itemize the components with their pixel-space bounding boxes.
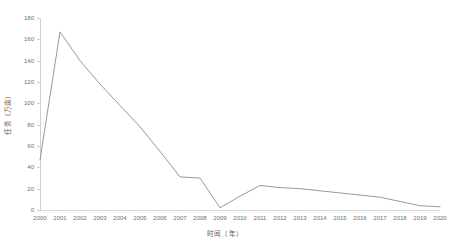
y-tick-mark	[37, 167, 40, 168]
y-tick-mark	[37, 146, 40, 147]
y-tick-mark	[37, 103, 40, 104]
x-axis-tick-labels: 2000200120022003200420052006200720082009…	[0, 214, 450, 228]
y-tick-mark	[37, 61, 40, 62]
data-series-line	[40, 32, 440, 208]
y-tick-mark	[37, 39, 40, 40]
x-tick-label: 2020	[428, 214, 450, 222]
y-tick-mark	[37, 82, 40, 83]
x-axis-title: 时间（年）	[0, 228, 450, 238]
y-tick-mark	[37, 125, 40, 126]
y-tick-mark	[37, 18, 40, 19]
line-chart: 任务（万亩） 020406080100120140160180 20002001…	[0, 0, 450, 246]
y-tick-mark	[37, 189, 40, 190]
series-layer	[0, 0, 450, 246]
y-tick-mark	[37, 210, 40, 211]
